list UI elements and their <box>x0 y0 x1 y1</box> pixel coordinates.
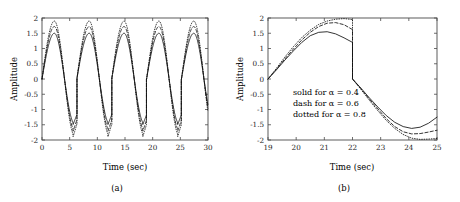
panel-a-curves <box>42 21 208 137</box>
panel-a-xtick-label: 30 <box>203 143 213 152</box>
panel-a-yticks: 21.510.50-0.5-1-1.5-2 <box>24 14 208 145</box>
panel-b: 19202122232425 21.510.50-0.5-1-1.5-2 sol… <box>230 0 460 202</box>
panel-b-ytick-label: 0.5 <box>253 59 265 68</box>
panel-b-xtick-label: 20 <box>292 143 302 152</box>
panel-a-xtick-label: 5 <box>67 143 72 152</box>
panel-a-curve-dotted <box>42 21 208 137</box>
panel-b-ytick-label: -0.5 <box>250 90 264 99</box>
panel-a-ytick-label: 1 <box>33 44 38 53</box>
panel-a-ytick-label: -1.5 <box>24 120 38 129</box>
panel-a-ytick-label: 1.5 <box>27 29 39 38</box>
panel-a-curve-dash <box>42 27 208 132</box>
panel-a-xtick-label: 0 <box>40 143 45 152</box>
panel-a-caption: (a) <box>111 183 123 193</box>
panel-a-yaxis-title: Amplitude <box>9 57 19 102</box>
panel-b-xtick-label: 23 <box>376 143 386 152</box>
panel-a-xtick-label: 10 <box>93 143 103 152</box>
panel-a-frame <box>42 18 208 140</box>
panel-a-ytick-label: 2 <box>33 14 38 23</box>
panel-b-ytick-label: 2 <box>259 14 264 23</box>
panel-a-ytick-label: 0 <box>33 75 38 84</box>
panel-a-curve-solid <box>42 33 208 124</box>
panel-b-ytick-label: -2 <box>257 136 264 145</box>
panel-a-xtick-label: 15 <box>120 143 130 152</box>
panel-b-caption: (b) <box>338 183 350 193</box>
panel-a-xtick-label: 20 <box>148 143 158 152</box>
panel-a-xaxis-title: Time (sec) <box>103 162 147 172</box>
legend-entry-dash: dash for α = 0.6 <box>293 99 359 108</box>
panel-b-yaxis-title: Amplitude <box>235 57 245 102</box>
legend-entry-dotted: dotted for α = 0.8 <box>293 110 366 119</box>
panel-a-plot-area: 051015202530 21.510.50-0.5-1-1.5-2 <box>24 14 213 152</box>
panel-b-curves <box>268 19 437 140</box>
panel-a-ytick-label: -2 <box>31 136 38 145</box>
panel-b-ytick-label: 1.5 <box>253 29 265 38</box>
panel-b-ytick-label: 0 <box>259 75 264 84</box>
panel-b-xtick-label: 24 <box>404 143 414 152</box>
panel-a-ytick-label: -1 <box>31 105 38 114</box>
panel-a-ytick-label: -0.5 <box>24 90 38 99</box>
panel-b-ytick-label: 1 <box>259 44 264 53</box>
panel-a-ytick-label: 0.5 <box>27 59 39 68</box>
panel-b-xtick-label: 22 <box>348 143 357 152</box>
panel-b-ytick-label: -1.5 <box>250 120 264 129</box>
panel-a-xtick-label: 25 <box>176 143 186 152</box>
panel-b-xtick-label: 25 <box>432 143 442 152</box>
panel-b-ytick-label: -1 <box>257 105 264 114</box>
panel-b-yticks: 21.510.50-0.5-1-1.5-2 <box>250 14 437 145</box>
panel-b-legend: solid for α = 0.4 dash for α = 0.6 dotte… <box>293 88 366 119</box>
legend-entry-solid: solid for α = 0.4 <box>293 88 359 97</box>
panel-b-xtick-label: 21 <box>320 143 329 152</box>
panel-a: 051015202530 21.510.50-0.5-1-1.5-2 Time … <box>0 0 230 202</box>
panel-b-plot-area: 19202122232425 21.510.50-0.5-1-1.5-2 sol… <box>250 14 442 152</box>
panel-b-xaxis-title: Time (sec) <box>330 162 374 172</box>
panel-b-xtick-label: 19 <box>263 143 273 152</box>
two-panel-figure: 051015202530 21.510.50-0.5-1-1.5-2 Time … <box>0 0 460 202</box>
